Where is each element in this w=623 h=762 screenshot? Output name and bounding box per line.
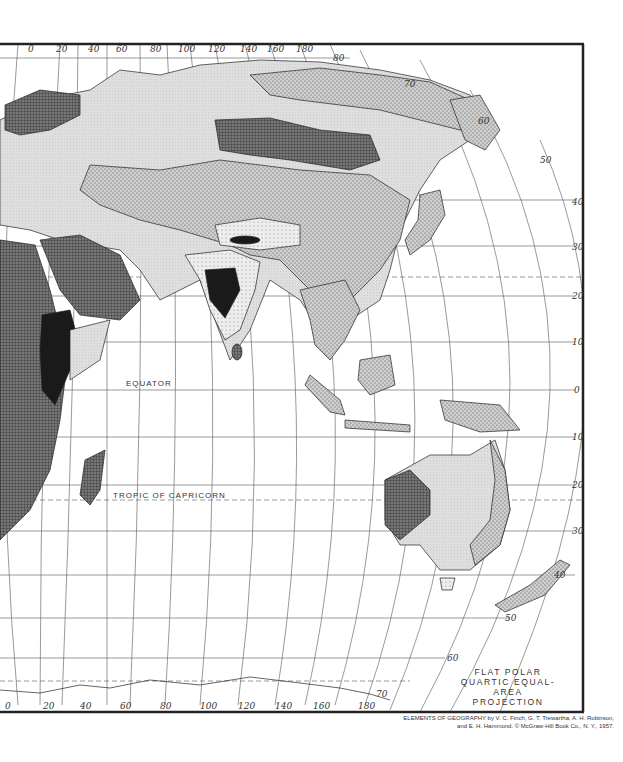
svg-text:100: 100 [200, 701, 217, 711]
svg-text:20: 20 [571, 291, 584, 301]
svg-text:40: 40 [79, 701, 92, 711]
projection-title-line-1: FLAT POLAR [448, 667, 568, 677]
svg-text:70: 70 [376, 689, 388, 699]
equator-label: EQUATOR [126, 379, 172, 388]
svg-text:160: 160 [267, 44, 284, 54]
projection-title-line-3: PROJECTION [448, 697, 568, 707]
svg-text:10: 10 [572, 337, 584, 347]
land-java [345, 420, 410, 432]
land-new-guinea [440, 400, 520, 432]
svg-text:140: 140 [275, 701, 292, 711]
land-madagascar [80, 450, 105, 505]
svg-text:60: 60 [478, 116, 490, 126]
land-tasmania [440, 578, 455, 590]
projection-title: FLAT POLAR QUARTIC EQUAL-AREA PROJECTION [448, 667, 568, 707]
svg-text:60: 60 [447, 653, 459, 663]
svg-text:40: 40 [571, 197, 584, 207]
credit-line-1: ELEMENTS OF GEOGRAPHY by V. C. Finch, G.… [403, 714, 614, 722]
bottom-longitude-labels: 0 20 40 60 80 100 120 140 160 180 [5, 701, 375, 711]
svg-text:180: 180 [358, 701, 375, 711]
svg-text:80: 80 [333, 53, 345, 63]
svg-text:50: 50 [505, 613, 517, 623]
svg-text:160: 160 [313, 701, 330, 711]
land-indochina [300, 280, 360, 360]
land-sri-lanka [232, 344, 242, 360]
svg-text:80: 80 [160, 701, 172, 711]
svg-text:60: 60 [120, 701, 132, 711]
svg-text:0: 0 [5, 701, 11, 711]
svg-text:0: 0 [574, 385, 580, 395]
tropic-of-capricorn-label: TROPIC OF CAPRICORN [113, 491, 226, 500]
svg-text:30: 30 [572, 242, 584, 252]
svg-text:20: 20 [42, 701, 55, 711]
land-new-zealand [495, 560, 570, 612]
svg-text:40: 40 [87, 44, 100, 54]
svg-text:40: 40 [553, 570, 566, 580]
land-sumatra [305, 375, 345, 415]
svg-text:120: 120 [208, 44, 225, 54]
svg-text:180: 180 [296, 44, 313, 54]
land-borneo [358, 355, 395, 395]
projection-title-line-2: QUARTIC EQUAL-AREA [448, 677, 568, 697]
svg-text:80: 80 [150, 44, 162, 54]
svg-text:120: 120 [238, 701, 255, 711]
land-horn [70, 320, 110, 380]
svg-text:50: 50 [540, 155, 552, 165]
source-credit: ELEMENTS OF GEOGRAPHY by V. C. Finch, G.… [403, 714, 614, 730]
landmasses [0, 60, 570, 700]
svg-text:10: 10 [572, 432, 584, 442]
svg-text:0: 0 [28, 44, 34, 54]
credit-line-2: and E. H. Hammond. © McGraw-Hill Book Co… [403, 722, 614, 730]
svg-text:30: 30 [572, 526, 584, 536]
world-map-east: 0 20 40 60 80 100 120 140 160 180 0 20 4… [0, 0, 623, 762]
region-tibet [215, 218, 300, 250]
svg-text:60: 60 [116, 44, 128, 54]
top-longitude-labels: 0 20 40 60 80 100 120 140 160 180 [28, 44, 313, 54]
svg-text:100: 100 [178, 44, 195, 54]
svg-text:20: 20 [571, 480, 584, 490]
svg-text:140: 140 [240, 44, 257, 54]
land-antarctica [0, 677, 390, 700]
svg-text:70: 70 [404, 79, 416, 89]
svg-text:20: 20 [55, 44, 68, 54]
region-tibet-dark [230, 236, 260, 244]
